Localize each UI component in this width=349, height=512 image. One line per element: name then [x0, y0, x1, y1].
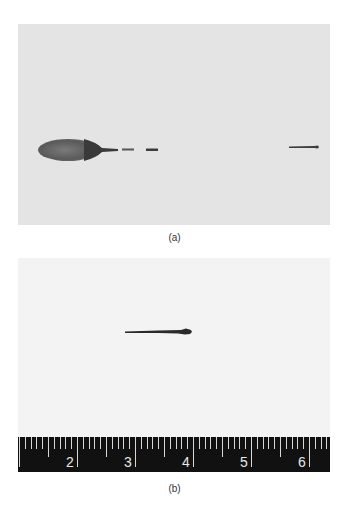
ruler-tick [152, 437, 153, 449]
ruler-tick [65, 437, 66, 449]
caption-b: (b) [0, 483, 349, 494]
ruler-tick [193, 437, 194, 467]
ruler-tick [100, 437, 101, 449]
ruler-tick [326, 437, 327, 449]
ruler-tick [245, 437, 246, 449]
ruler-label: 5 [240, 454, 248, 470]
ruler-tick [292, 437, 293, 449]
ruler-tick [309, 437, 310, 467]
panel-b-objects [18, 258, 330, 438]
caption-a: (a) [0, 232, 349, 243]
ruler-tick [274, 437, 275, 449]
ruler-tick [239, 437, 240, 449]
ruler-tick [42, 437, 43, 449]
ruler-tick [19, 437, 20, 467]
ruler-tick [129, 437, 130, 449]
ruler-tick [251, 437, 252, 467]
needle-object [125, 329, 192, 335]
ruler-tick [176, 437, 177, 449]
ruler-tick [147, 437, 148, 449]
ruler-tick [216, 437, 217, 449]
ruler-tick [315, 437, 316, 449]
ruler-tick [321, 437, 322, 449]
ruler-tick [141, 437, 142, 449]
ruler-label: 4 [182, 454, 190, 470]
rod-streak [289, 146, 319, 149]
ruler-tick [118, 437, 119, 449]
ruler-tick [181, 437, 182, 449]
ruler-tick [187, 437, 188, 449]
ruler-tick [77, 437, 78, 467]
ruler-tick [280, 437, 281, 457]
ellipsoid-dark-tail [84, 139, 118, 161]
ruler-tick [158, 437, 159, 449]
ruler-tick [297, 437, 298, 449]
ruler-tick [263, 437, 264, 449]
panel-a-objects [18, 24, 330, 225]
ruler-tick [112, 437, 113, 449]
ruler-tick [286, 437, 287, 449]
ruler-tick [199, 437, 200, 449]
ruler-label: 3 [124, 454, 132, 470]
ruler-tick [210, 437, 211, 449]
ruler-tick [257, 437, 258, 449]
ruler-tick [83, 437, 84, 449]
ruler-tick [303, 437, 304, 449]
ruler-label: 2 [66, 454, 74, 470]
ruler-tick [71, 437, 72, 449]
ruler-tick [25, 437, 26, 449]
ruler-tick [164, 437, 165, 457]
ruler-tick [54, 437, 55, 449]
ruler-tick [48, 437, 49, 457]
photo-panel-a [18, 24, 330, 225]
ruler-tick [268, 437, 269, 449]
ruler-tick [60, 437, 61, 449]
ruler-tick [234, 437, 235, 449]
ruler-tick [170, 437, 171, 449]
ruler-scale: 23456 [18, 437, 330, 472]
ruler-tick [222, 437, 223, 457]
ruler-tick [94, 437, 95, 449]
ruler-tick [228, 437, 229, 449]
ruler-tick [123, 437, 124, 449]
ruler-tick [106, 437, 107, 457]
ruler-label: 6 [298, 454, 306, 470]
ruler-tick [31, 437, 32, 449]
streak-fragment [122, 149, 134, 151]
photo-panel-b: 23456 [18, 258, 330, 472]
ruler-tick [89, 437, 90, 449]
ruler-tick [36, 437, 37, 449]
ruler-tick [205, 437, 206, 449]
dash-fragment [146, 149, 158, 152]
ruler-tick [135, 437, 136, 467]
